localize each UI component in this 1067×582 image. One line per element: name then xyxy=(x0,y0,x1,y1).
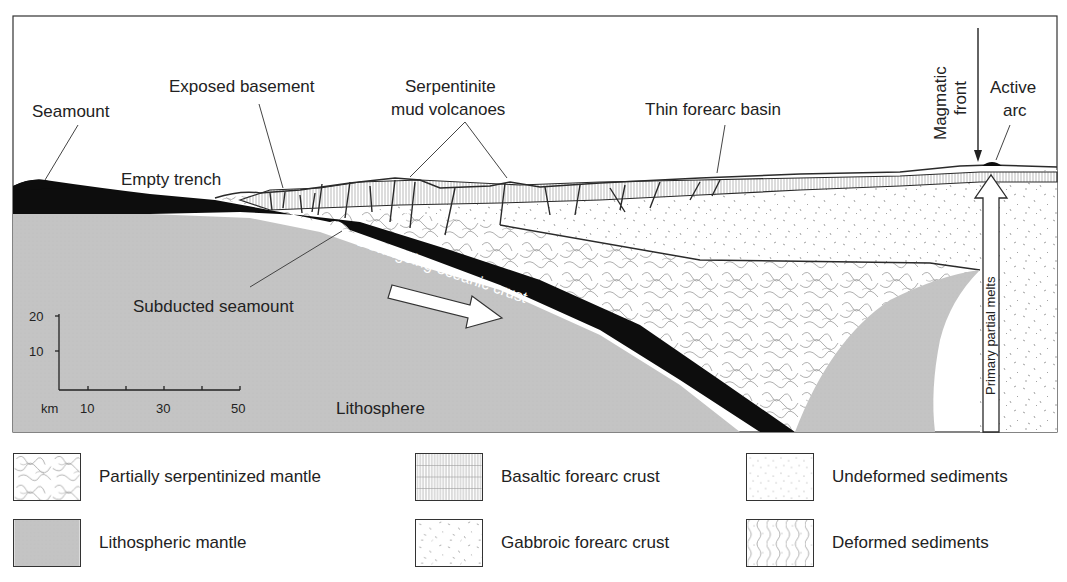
magmatic-front-label-1: Magmatic xyxy=(931,66,950,140)
basaltic-swatch-icon xyxy=(415,453,483,501)
serpentinized-swatch-icon xyxy=(13,453,81,501)
gabbroic-swatch-icon xyxy=(415,519,483,567)
primary-partial-melts-label: Primary partial melts xyxy=(983,276,998,395)
thin-forearc-basin-label: Thin forearc basin xyxy=(645,100,781,119)
serpentinite-label-1: Serpentinite xyxy=(405,77,496,96)
scale-y-tick-10: 10 xyxy=(29,344,43,359)
legend-item-lithospheric: Lithospheric mantle xyxy=(13,519,246,567)
legend-item-serpentinized: Partially serpentinized mantle xyxy=(13,453,321,501)
scale-x-tick-50: 50 xyxy=(231,401,245,416)
legend-item-undeformed: Undeformed sediments xyxy=(746,453,1008,501)
undeformed-swatch-icon xyxy=(746,453,814,501)
active-arc-label-1: Active xyxy=(990,78,1036,97)
magmatic-front-label-2: front xyxy=(951,81,970,115)
active-arc-label-2: arc xyxy=(1003,101,1027,120)
subducted-seamount-label: Subducted seamount xyxy=(133,297,294,316)
deformed-swatch-icon xyxy=(746,519,814,567)
scale-unit: km xyxy=(41,401,58,416)
scale-y-tick-20: 20 xyxy=(29,309,43,324)
scale-x-tick-30: 30 xyxy=(156,401,170,416)
legend: Partially serpentinized mantle Lithosphe… xyxy=(0,440,1067,582)
legend-label: Gabbroic forearc crust xyxy=(501,533,669,553)
legend-label: Lithospheric mantle xyxy=(99,533,246,553)
legend-item-deformed: Deformed sediments xyxy=(746,519,989,567)
legend-label: Basaltic forearc crust xyxy=(501,467,660,487)
legend-item-gabbroic: Gabbroic forearc crust xyxy=(415,519,669,567)
exposed-basement-label: Exposed basement xyxy=(169,77,315,96)
lithosphere-label: Lithosphere xyxy=(336,399,425,418)
scale-x-tick-10: 10 xyxy=(80,401,94,416)
serpentinite-label-2: mud volcanoes xyxy=(391,100,505,119)
empty-trench-label: Empty trench xyxy=(121,170,221,189)
lithospheric-swatch-icon xyxy=(13,519,81,567)
subduction-cross-section: Primary partial melts Magmatic front Sea… xyxy=(0,0,1067,440)
legend-label: Partially serpentinized mantle xyxy=(99,467,321,487)
legend-item-basaltic: Basaltic forearc crust xyxy=(415,453,660,501)
legend-label: Undeformed sediments xyxy=(832,467,1008,487)
legend-label: Deformed sediments xyxy=(832,533,989,553)
seamount-label: Seamount xyxy=(32,102,110,121)
